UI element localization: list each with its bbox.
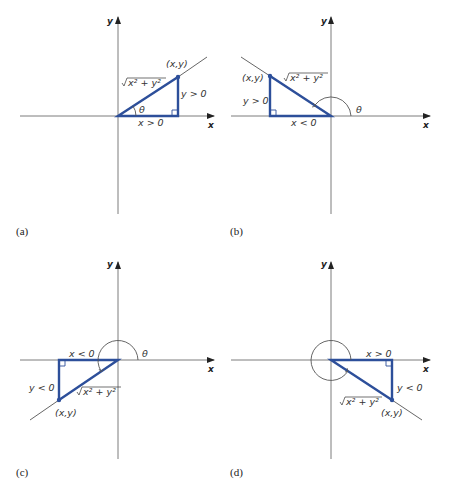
point-marker bbox=[57, 398, 61, 402]
svg-text:x² + y²: x² + y² bbox=[82, 386, 116, 397]
panel-caption: (c) bbox=[16, 466, 29, 479]
panel-caption: (d) bbox=[230, 466, 243, 479]
theta-label: θ bbox=[139, 104, 145, 115]
panel-caption: (a) bbox=[16, 225, 29, 238]
hypotenuse-label: x² + y² bbox=[284, 72, 328, 83]
svg-text:x² + y²: x² + y² bbox=[289, 72, 323, 83]
svg-text:x² + y²: x² + y² bbox=[127, 77, 161, 88]
x-axis-label: x bbox=[207, 120, 215, 130]
x-axis-label: x bbox=[422, 364, 430, 374]
panel-a: (x,y) x² + y² y > 0 x > 0 θ x y (a) bbox=[16, 16, 215, 238]
x-axis-label: x bbox=[207, 364, 215, 374]
panel-c: (x,y) x² + y² y < 0 x < 0 θ x y (c) bbox=[16, 259, 215, 479]
panel-caption: (b) bbox=[230, 225, 243, 238]
theta-arc bbox=[133, 106, 136, 116]
theta-arc bbox=[315, 97, 351, 116]
y-sign-label: y > 0 bbox=[242, 95, 269, 106]
y-axis-label: y bbox=[107, 259, 114, 269]
y-sign-label: y < 0 bbox=[28, 382, 55, 393]
hypotenuse-label: x² + y² bbox=[77, 386, 121, 397]
panel-d: (x,y) x² + y² y < 0 x > 0 x y (d) bbox=[230, 259, 430, 479]
right-triangle bbox=[331, 360, 392, 400]
y-axis-label: y bbox=[107, 16, 114, 26]
hypotenuse-label: x² + y² bbox=[340, 396, 382, 407]
point-marker bbox=[176, 75, 180, 79]
x-axis-label: x bbox=[422, 120, 430, 130]
point-label: (x,y) bbox=[381, 407, 403, 418]
x-sign-label: x < 0 bbox=[68, 348, 95, 359]
x-sign-label: x > 0 bbox=[365, 348, 392, 359]
theta-label: θ bbox=[356, 104, 362, 115]
point-label: (x,y) bbox=[166, 58, 188, 69]
theta-label: θ bbox=[142, 348, 148, 359]
y-sign-label: y < 0 bbox=[396, 382, 423, 393]
svg-text:x² + y²: x² + y² bbox=[345, 396, 379, 407]
polar-coordinates-figure: (x,y) x² + y² y > 0 x > 0 θ x y (a) (x,y… bbox=[0, 0, 452, 497]
y-axis-label: y bbox=[321, 259, 328, 269]
point-marker bbox=[390, 398, 394, 402]
y-sign-label: y > 0 bbox=[180, 88, 207, 99]
y-axis-label: y bbox=[321, 16, 328, 26]
point-marker bbox=[268, 74, 272, 78]
hypotenuse-label: x² + y² bbox=[122, 77, 166, 88]
x-sign-label: x > 0 bbox=[137, 117, 164, 128]
x-sign-label: x < 0 bbox=[290, 117, 317, 128]
point-label: (x,y) bbox=[55, 407, 77, 418]
panel-b: (x,y) x² + y² y > 0 x < 0 θ x y (b) bbox=[230, 16, 430, 238]
point-label: (x,y) bbox=[242, 72, 264, 83]
